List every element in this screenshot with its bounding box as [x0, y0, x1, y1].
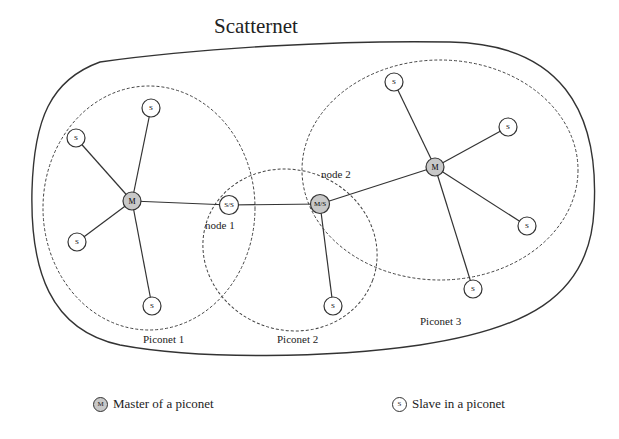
node-1-label: node 1 [205, 219, 235, 231]
piconet-1-label: Piconet 1 [143, 333, 184, 345]
svg-text:S: S [75, 238, 79, 246]
slave-node: S [67, 129, 85, 147]
node-2-label: node 2 [321, 168, 351, 180]
svg-text:S: S [506, 123, 510, 131]
slave-node: S [324, 297, 342, 315]
diagram-title: Scatternet [214, 14, 298, 39]
scatternet-diagram: M S S S S S/S M/S S [0, 0, 619, 439]
legend-slave-label: Slave in a piconet [412, 396, 505, 412]
legend-master: M Master of a piconet [93, 396, 214, 412]
svg-text:S: S [471, 285, 475, 293]
slave-node: S [143, 297, 161, 315]
svg-text:M/S: M/S [314, 200, 326, 208]
links [76, 82, 527, 306]
slave-node: S [68, 233, 86, 251]
svg-text:M: M [128, 197, 135, 206]
svg-text:S: S [525, 222, 529, 230]
slave-node: S [385, 73, 403, 91]
legend-master-label: Master of a piconet [113, 396, 214, 412]
slave-node-icon: S [392, 397, 407, 412]
svg-text:M: M [431, 163, 438, 172]
piconet-3-label: Piconet 3 [420, 315, 461, 327]
slave-slave-bridge-node: S/S [220, 196, 239, 215]
master-node-piconet-1: M [123, 192, 141, 210]
slave-node: S [142, 99, 160, 117]
svg-text:S: S [150, 302, 154, 310]
piconet-2-boundary [180, 145, 400, 356]
master-node-piconet-3: M [426, 158, 444, 176]
svg-text:S: S [331, 302, 335, 310]
svg-text:S/S: S/S [224, 201, 234, 209]
master-node-icon: M [93, 397, 108, 412]
master-slave-bridge-node: M/S [311, 195, 330, 214]
slave-node: S [499, 118, 517, 136]
svg-text:S: S [74, 134, 78, 142]
legend-slave: S Slave in a piconet [392, 396, 505, 412]
svg-text:S: S [149, 104, 153, 112]
piconet-2-label: Piconet 2 [277, 333, 318, 345]
svg-text:S: S [392, 78, 396, 86]
slave-node: S [464, 280, 482, 298]
slave-node: S [518, 217, 536, 235]
